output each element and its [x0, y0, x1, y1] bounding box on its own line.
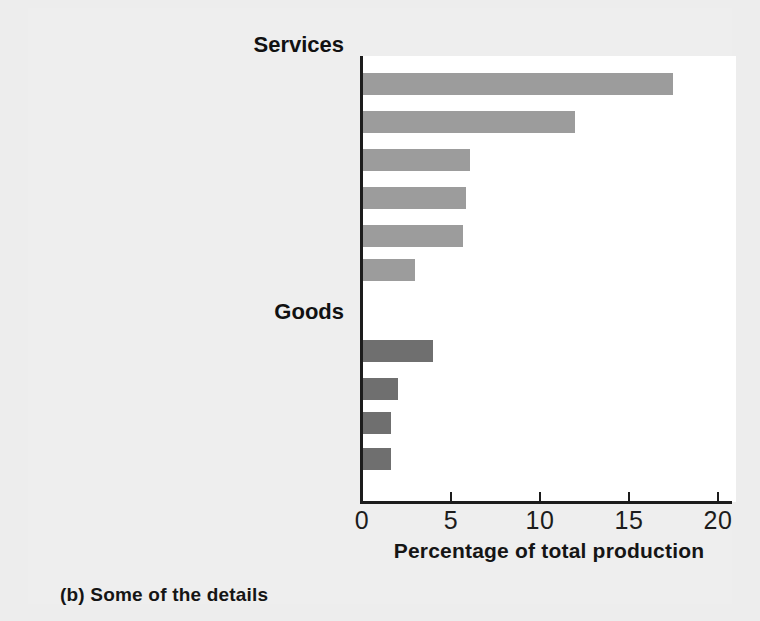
bar-transportation-and-storage	[363, 259, 415, 281]
bar-health	[363, 73, 673, 95]
figure-caption: (b) Some of the details	[60, 584, 268, 606]
xtick-mark-5	[450, 492, 452, 503]
xtick-label-5: 5	[421, 506, 481, 535]
bar-real-estate	[363, 111, 575, 133]
bar-retail-trades	[363, 187, 466, 209]
bar-utilities	[363, 378, 398, 400]
bar-education	[363, 149, 470, 171]
group-heading-services: Services	[24, 34, 344, 56]
xtick-mark-15	[628, 492, 630, 503]
bar-wholesale-trades	[363, 225, 463, 247]
figure-panel: Services Goods Health Real estate Educat…	[28, 8, 732, 604]
x-axis-title: Percentage of total production	[362, 539, 736, 563]
xtick-label-20: 20	[688, 506, 748, 535]
xtick-label-10: 10	[510, 506, 570, 535]
value-axis-line	[360, 501, 732, 504]
xtick-label-15: 15	[599, 506, 659, 535]
group-heading-goods: Goods	[24, 301, 344, 323]
xtick-label-0: 0	[332, 506, 392, 535]
bar-construction	[363, 340, 433, 362]
bar-chemicals	[363, 448, 391, 470]
xtick-mark-20	[717, 492, 719, 503]
xtick-mark-10	[539, 492, 541, 503]
bar-food	[363, 412, 391, 434]
xtick-mark-0	[361, 492, 363, 503]
